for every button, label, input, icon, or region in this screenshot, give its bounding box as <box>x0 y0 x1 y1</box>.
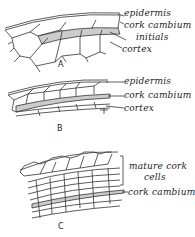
label-cells: cells <box>144 173 166 182</box>
panel-c-cells <box>20 152 124 218</box>
panel-label-a: A <box>58 60 63 69</box>
label-initials-a: initials <box>136 33 169 42</box>
label-epidermis-a: epidermis <box>124 9 171 18</box>
label-cortex-a: cortex <box>122 45 152 54</box>
panel-label-c: C <box>58 222 64 231</box>
label-cork-cambium-c: cork cambium <box>128 188 195 197</box>
label-cork-cambium-a: cork cambium <box>124 21 191 30</box>
label-epidermis-b: epidermis <box>124 77 171 86</box>
panel-c-leaders <box>120 156 128 192</box>
label-cortex-b: cortex <box>124 104 154 113</box>
label-mature-cork: mature cork <box>129 162 187 171</box>
panel-b-cells <box>8 80 110 116</box>
panel-label-b: B <box>57 124 63 133</box>
label-cork-cambium-b: cork cambium <box>124 91 191 100</box>
